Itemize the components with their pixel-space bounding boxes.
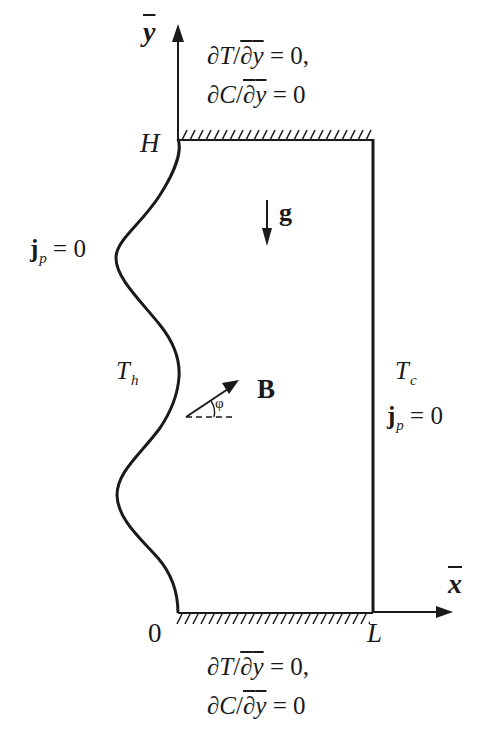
bc-denominator: y xyxy=(253,653,264,680)
angle-label: φ xyxy=(215,396,224,411)
temperature-subscript: h xyxy=(131,372,139,388)
current-density-rhs: = 0 xyxy=(404,402,443,429)
current-density-rhs: = 0 xyxy=(47,235,86,262)
bc-denominator: y xyxy=(255,692,266,719)
bottom-bc-concentration: ∂C/∂y = 0 xyxy=(207,693,306,718)
bc-variable: C xyxy=(219,692,236,719)
bc-variable: C xyxy=(219,81,236,108)
current-density-subscript: p xyxy=(396,417,404,433)
top-bc-temperature: ∂T/∂y = 0, xyxy=(207,43,309,68)
partial-symbol: ∂ xyxy=(243,692,255,719)
top-wall-hatching xyxy=(181,129,374,140)
partial-symbol: ∂ xyxy=(243,81,255,108)
bc-denominator: y xyxy=(253,42,264,69)
bc-denominator: y xyxy=(255,81,266,108)
current-density-symbol: j xyxy=(30,235,38,262)
partial-symbol: ∂ xyxy=(207,81,219,108)
partial-symbol: ∂ xyxy=(207,42,219,69)
current-density-subscript: p xyxy=(39,250,47,266)
bc-slash: / xyxy=(236,81,243,108)
bottom-bc-temperature: ∂T/∂y = 0, xyxy=(207,654,309,679)
bc-rhs: = 0 xyxy=(266,81,305,108)
partial-symbol: ∂ xyxy=(240,42,252,69)
temperature-symbol: T xyxy=(395,357,409,384)
temperature-subscript: c xyxy=(410,372,417,388)
x-axis-label-text: x xyxy=(448,568,462,599)
temperature-symbol: T xyxy=(116,357,130,384)
magnetic-field-label: B xyxy=(257,376,275,403)
diagram-canvas xyxy=(0,0,495,732)
gravity-label: g xyxy=(279,200,292,226)
x-axis-label: x xyxy=(448,570,462,598)
left-wall-current-condition: jp = 0 xyxy=(30,236,86,261)
length-label: L xyxy=(367,620,382,647)
top-bc-concentration: ∂C/∂y = 0 xyxy=(207,82,306,107)
bc-variable: T xyxy=(219,42,233,69)
right-wall-current-condition: jp = 0 xyxy=(387,403,443,428)
bc-slash: / xyxy=(236,692,243,719)
y-axis-label: y xyxy=(143,18,155,46)
cavity-diagram: y x H 0 L ∂T/∂y = 0, ∂C/∂y = 0 ∂T/∂y = 0… xyxy=(0,0,495,732)
origin-label: 0 xyxy=(148,620,162,647)
cold-wall-temperature: Tc xyxy=(395,358,417,383)
x-axis-arrow-icon xyxy=(436,606,453,618)
bc-variable: T xyxy=(219,653,233,680)
bc-rhs: = 0, xyxy=(264,42,309,69)
y-axis-label-text: y xyxy=(143,16,155,47)
bc-rhs: = 0 xyxy=(266,692,305,719)
hot-wall-temperature: Th xyxy=(116,358,138,383)
y-axis-arrow-icon xyxy=(172,24,184,42)
gravity-arrow-icon xyxy=(262,228,272,246)
partial-symbol: ∂ xyxy=(207,692,219,719)
partial-symbol: ∂ xyxy=(207,653,219,680)
bc-rhs: = 0, xyxy=(264,653,309,680)
current-density-symbol: j xyxy=(387,402,395,429)
partial-symbol: ∂ xyxy=(240,653,252,680)
bottom-wall-hatching xyxy=(176,613,370,625)
height-label: H xyxy=(140,130,160,157)
